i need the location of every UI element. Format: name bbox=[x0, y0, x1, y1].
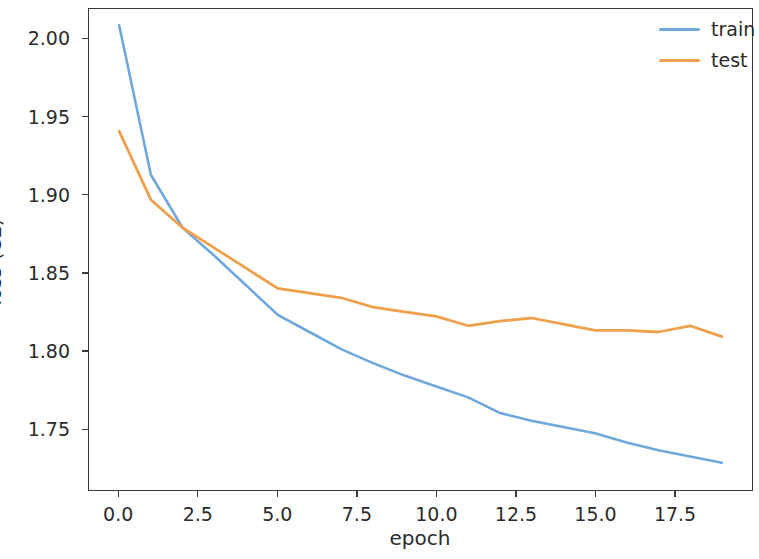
legend-label-train: train bbox=[711, 18, 755, 40]
x-tick-label: 0.0 bbox=[103, 503, 133, 525]
x-axis-label: epoch bbox=[390, 526, 451, 550]
x-tick-mark bbox=[118, 491, 119, 497]
y-axis-label: loss (CE) bbox=[0, 218, 6, 305]
legend-swatch-test bbox=[659, 59, 700, 62]
x-tick-mark bbox=[436, 491, 437, 497]
y-tick-mark bbox=[82, 116, 88, 117]
legend-item-test[interactable]: test bbox=[659, 49, 755, 71]
y-tick-label: 2.00 bbox=[0, 27, 70, 49]
x-tick-mark bbox=[595, 491, 596, 497]
y-tick-label: 1.85 bbox=[0, 262, 70, 284]
y-tick-label: 1.95 bbox=[0, 106, 70, 128]
x-tick-label: 12.5 bbox=[495, 503, 537, 525]
x-tick-mark bbox=[515, 491, 516, 497]
y-tick-mark bbox=[82, 38, 88, 39]
y-tick-label: 1.75 bbox=[0, 418, 70, 440]
y-tick-mark bbox=[82, 429, 88, 430]
x-tick-label: 17.5 bbox=[654, 503, 696, 525]
x-tick-label: 2.5 bbox=[183, 503, 213, 525]
y-tick-label: 1.90 bbox=[0, 184, 70, 206]
x-tick-mark bbox=[277, 491, 278, 497]
x-tick-mark bbox=[197, 491, 198, 497]
legend-item-train[interactable]: train bbox=[659, 18, 755, 40]
x-tick-label: 5.0 bbox=[262, 503, 292, 525]
plot-lines bbox=[89, 9, 752, 490]
x-tick-label: 7.5 bbox=[342, 503, 372, 525]
legend-label-test: test bbox=[711, 49, 748, 71]
y-tick-mark bbox=[82, 194, 88, 195]
legend-swatch-train bbox=[659, 28, 700, 31]
x-tick-mark bbox=[674, 491, 675, 497]
x-tick-label: 10.0 bbox=[415, 503, 457, 525]
plot-area bbox=[88, 8, 753, 491]
y-tick-label: 1.80 bbox=[0, 340, 70, 362]
x-tick-mark bbox=[356, 491, 357, 497]
y-tick-mark bbox=[82, 350, 88, 351]
line-series-test bbox=[119, 131, 722, 336]
chart-figure: 2.001.951.901.851.801.75 0.02.55.07.510.… bbox=[0, 0, 759, 559]
chart-legend: train test bbox=[655, 12, 759, 77]
x-tick-label: 15.0 bbox=[574, 503, 616, 525]
y-tick-mark bbox=[82, 272, 88, 273]
